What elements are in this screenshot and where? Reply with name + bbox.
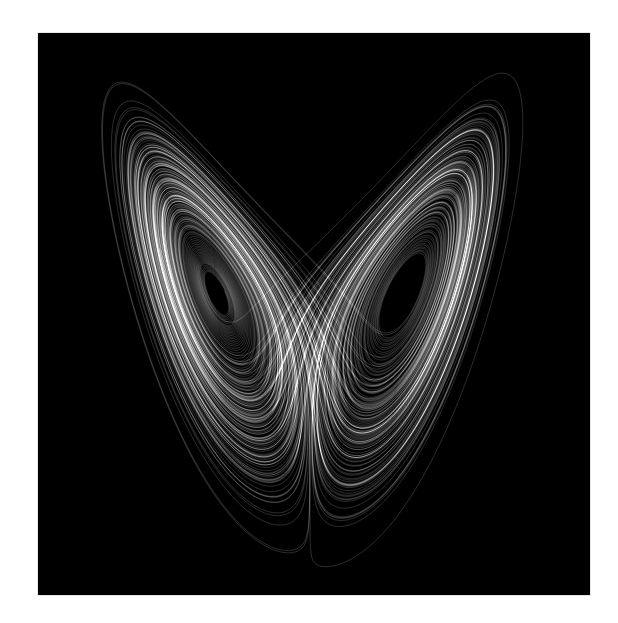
image-canvas [0, 0, 618, 623]
lorenz-attractor-plot [0, 0, 618, 623]
